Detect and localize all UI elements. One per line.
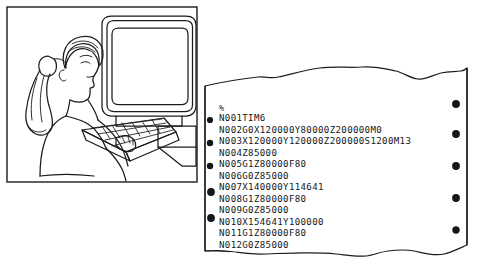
punch-hole-right-5 xyxy=(452,226,459,233)
punch-hole-right-1 xyxy=(452,100,460,108)
code-line: N006G0Z85000 xyxy=(219,171,449,183)
punch-hole-left-3 xyxy=(207,163,213,169)
code-line: N010X154641Y100000 xyxy=(219,217,449,229)
code-line: N004Z85000 xyxy=(219,148,449,160)
code-line: N012G0Z85000 xyxy=(219,240,449,252)
code-line: N003X120000Y120000Z200000S1200M13 xyxy=(219,136,449,148)
punch-hole-left-2 xyxy=(207,140,213,146)
code-line: % xyxy=(219,103,449,113)
code-line: N007X140000Y114641 xyxy=(219,182,449,194)
nc-program-listing: % N001TIM6 N002G0X120000Y80000Z200000M0 … xyxy=(219,103,449,252)
punch-hole-left-4 xyxy=(207,188,215,196)
code-line: N002G0X120000Y80000Z200000M0 xyxy=(219,125,449,137)
figure-canvas: % N001TIM6 N002G0X120000Y80000Z200000M0 … xyxy=(0,0,478,277)
punch-hole-left-1 xyxy=(207,117,213,123)
code-line: N001TIM6 xyxy=(219,113,449,125)
punch-hole-left-5 xyxy=(207,214,215,222)
code-line: N008G1Z80000F80 xyxy=(219,194,449,206)
punch-hole-right-2 xyxy=(452,130,460,138)
code-line: N009G0Z85000 xyxy=(219,205,449,217)
punch-hole-right-3 xyxy=(452,162,460,170)
code-line: N005G1Z80000F80 xyxy=(219,159,449,171)
code-line: N011G1Z80000F80 xyxy=(219,228,449,240)
punch-hole-right-4 xyxy=(452,194,460,202)
operator-illustration-panel xyxy=(6,6,198,183)
